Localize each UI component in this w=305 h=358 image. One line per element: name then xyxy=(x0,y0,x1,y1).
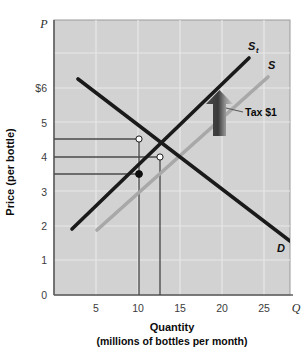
x-axis-symbol: Q xyxy=(292,301,301,315)
y-tick-label-6: $6 xyxy=(35,82,47,94)
y-tick-label-2: 2 xyxy=(41,220,47,232)
x-axis-subtitle: (millions of bottles per month) xyxy=(96,335,247,347)
x-tick-label-10: 10 xyxy=(132,302,144,314)
x-tick-label-15: 15 xyxy=(174,302,186,314)
supply-demand-tax-chart: $6 5 4 3 2 1 0 5 10 15 20 25 P Q S t S D… xyxy=(0,0,305,358)
y-tick-label-1: 1 xyxy=(41,254,47,266)
y-axis-title: Price (per bottle) xyxy=(4,128,16,216)
demand-curve-label: D xyxy=(277,242,285,254)
x-tick-label-25: 25 xyxy=(258,302,270,314)
tax-annotation-label: Tax $1 xyxy=(245,106,277,118)
x-tick-label-5: 5 xyxy=(93,302,99,314)
x-axis-title: Quantity xyxy=(150,321,195,333)
y-axis-symbol: P xyxy=(39,17,48,31)
x-tick-label-20: 20 xyxy=(216,302,228,314)
y-tick-label-4: 4 xyxy=(41,151,47,163)
marker-producer-net-price xyxy=(136,171,143,178)
marker-equilibrium-original xyxy=(157,154,163,160)
marker-equilibrium-with-tax xyxy=(136,136,142,142)
y-tick-label-5: 5 xyxy=(41,117,47,129)
y-tick-label-3: 3 xyxy=(41,186,47,198)
chart-svg: $6 5 4 3 2 1 0 5 10 15 20 25 P Q S t S D… xyxy=(0,0,305,358)
y-tick-label-0: 0 xyxy=(41,289,47,301)
supply-tax-curve-label: S xyxy=(248,40,256,52)
supply-curve-label: S xyxy=(268,59,276,71)
